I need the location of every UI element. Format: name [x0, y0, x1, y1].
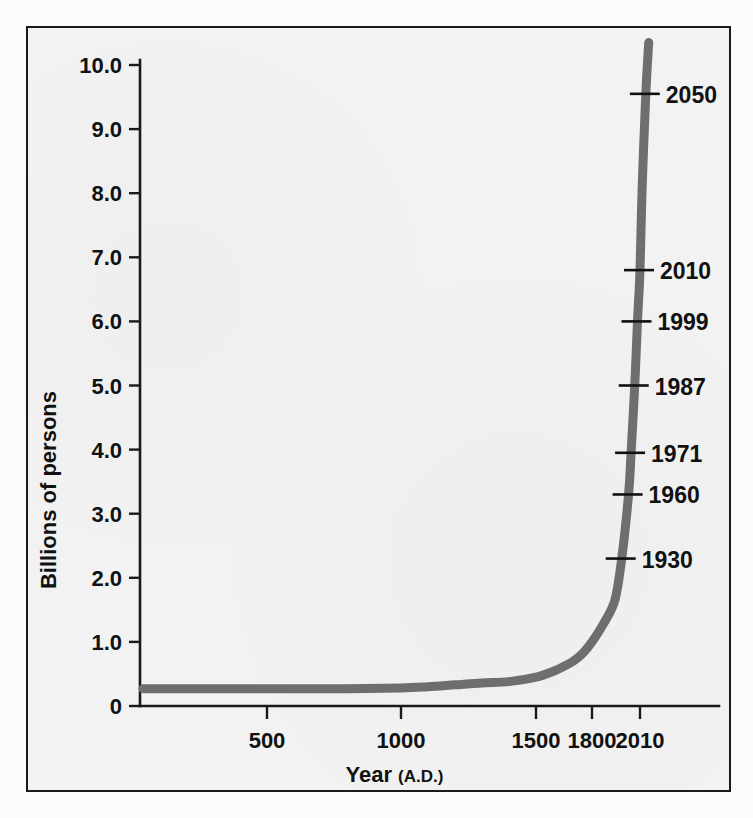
- x-axis-ticks: 5001000150018002010: [249, 706, 665, 753]
- y-tick-label: 8.0: [91, 181, 122, 206]
- annotation-label-2050: 2050: [666, 82, 717, 108]
- y-tick-label: 0: [110, 694, 122, 719]
- annotation-label-1999: 1999: [657, 309, 708, 335]
- annotation-label-1971: 1971: [651, 441, 702, 467]
- population-curve: [143, 43, 649, 689]
- y-tick-label: 7.0: [91, 245, 122, 270]
- y-tick-label: 2.0: [91, 566, 122, 591]
- year-annotations: 2050201019991987197119601930: [606, 82, 717, 573]
- y-tick-label: 4.0: [91, 438, 122, 463]
- annotation-label-1960: 1960: [649, 482, 700, 508]
- y-axis-ticks: 01.02.03.04.05.06.07.08.09.010.0: [79, 53, 140, 719]
- y-axis-title: Billions of persons: [36, 391, 61, 589]
- x-tick-label: 1500: [512, 728, 561, 753]
- x-tick-label: 1000: [377, 728, 426, 753]
- y-tick-label: 9.0: [91, 117, 122, 142]
- y-tick-label: 3.0: [91, 502, 122, 527]
- x-tick-label: 500: [249, 728, 286, 753]
- figure-canvas: Billions of persons 01.02.03.04.05.06.07…: [0, 0, 753, 818]
- y-tick-label: 6.0: [91, 309, 122, 334]
- population-growth-chart: Billions of persons 01.02.03.04.05.06.07…: [0, 0, 753, 818]
- annotation-label-2010: 2010: [660, 258, 711, 284]
- x-axis-title-suffix: (A.D.): [398, 767, 443, 786]
- x-tick-label: 1800: [568, 728, 617, 753]
- annotation-label-1930: 1930: [642, 547, 693, 573]
- x-tick-label: 2010: [616, 728, 665, 753]
- y-tick-label: 10.0: [79, 53, 122, 78]
- x-axis-title: Year: [346, 762, 393, 787]
- y-tick-label: 1.0: [91, 630, 122, 655]
- annotation-label-1987: 1987: [655, 374, 706, 400]
- y-tick-label: 5.0: [91, 374, 122, 399]
